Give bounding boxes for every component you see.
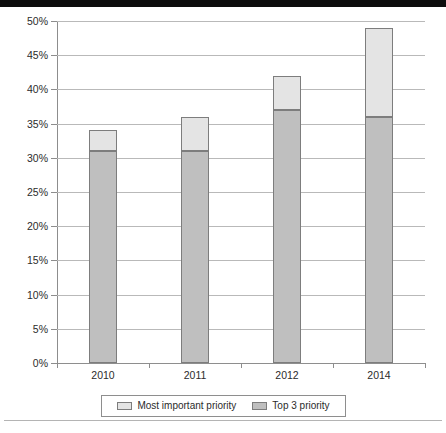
legend-entry-most-important-priority[interactable]: Most important priority <box>117 401 236 411</box>
y-axis-label-5: 5% <box>4 324 48 335</box>
x-axis-tick-3 <box>333 363 334 368</box>
bar-2010-top-3-priority[interactable] <box>89 151 117 363</box>
legend-swatch-icon-top-3-priority <box>252 402 267 410</box>
y-axis-label-20: 20% <box>4 221 48 232</box>
y-axis-label-10: 10% <box>4 289 48 300</box>
x-axis-tick-0 <box>57 363 58 368</box>
x-axis-tick-1 <box>149 363 150 368</box>
bar-2014-top-3-priority[interactable] <box>365 117 393 363</box>
page-bottom-rule <box>4 420 442 421</box>
y-axis-label-40: 40% <box>4 84 48 95</box>
bar-2012-most-important-priority[interactable] <box>273 76 301 110</box>
x-axis-label-2012: 2012 <box>275 369 298 381</box>
page-top-black-band <box>0 0 446 7</box>
x-axis-tick-4 <box>425 363 426 368</box>
legend-swatch-icon-most-important-priority <box>117 402 132 410</box>
y-axis-label-50: 50% <box>4 16 48 27</box>
bar-2011-most-important-priority[interactable] <box>181 117 209 151</box>
y-axis-label-45: 45% <box>4 50 48 61</box>
y-axis-label-30: 30% <box>4 153 48 164</box>
x-axis-tick-2 <box>241 363 242 368</box>
chart-page: 50% 45% 40% 35% 30% 25% 20% 15% 10% 5% 0… <box>0 0 446 433</box>
y-axis-label-0: 0% <box>4 358 48 369</box>
y-axis-label-25: 25% <box>4 187 48 198</box>
plot-area <box>57 21 425 363</box>
stacked-bar-chart: 50% 45% 40% 35% 30% 25% 20% 15% 10% 5% 0… <box>0 7 446 420</box>
legend-label-most-important-priority: Most important priority <box>137 401 236 411</box>
x-axis-label-2011: 2011 <box>184 369 207 381</box>
bar-2014-most-important-priority[interactable] <box>365 28 393 117</box>
gridline-50 <box>57 21 425 22</box>
bar-2011-top-3-priority[interactable] <box>181 151 209 363</box>
legend-label-top-3-priority: Top 3 priority <box>272 401 329 411</box>
y-axis-label-35: 35% <box>4 118 48 129</box>
x-axis-label-2010: 2010 <box>91 369 114 381</box>
chart-legend: Most important priority Top 3 priority <box>101 395 346 417</box>
bar-2012-top-3-priority[interactable] <box>273 110 301 363</box>
x-axis-label-2014: 2014 <box>367 369 390 381</box>
legend-entry-top-3-priority[interactable]: Top 3 priority <box>252 401 329 411</box>
y-axis-label-15: 15% <box>4 255 48 266</box>
bar-2010-most-important-priority[interactable] <box>89 130 117 151</box>
y-axis-labels: 50% 45% 40% 35% 30% 25% 20% 15% 10% 5% 0… <box>0 21 48 363</box>
